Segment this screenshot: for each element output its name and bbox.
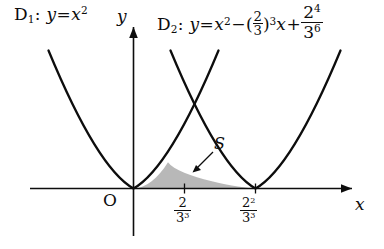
tick-label-intersection-denominator: 33: [174, 210, 191, 225]
region-leader-arrow-icon: [193, 165, 202, 173]
y-axis-arrow-icon: [129, 27, 138, 38]
tick-label-d2-vertex: 22 33: [240, 196, 257, 224]
tick-label-d2-vertex-fraction: 22 33: [240, 196, 257, 224]
tick-label-d2-vertex-num-exponent: 2: [250, 196, 255, 205]
shaded-region-s: [134, 162, 256, 188]
x-axis-label: x: [355, 196, 365, 213]
region-label-s: S: [214, 136, 225, 152]
x-axis-arrow-icon: [341, 184, 352, 193]
tick-label-intersection-numerator: 2: [174, 196, 191, 210]
figure-canvas: D1: y=x2 y D2: y=x2−(23)3x+2436 x O S: [0, 0, 384, 249]
tick-label-intersection-fraction: 2 33: [174, 196, 191, 224]
tick-label-d2-vertex-den-exponent: 3: [250, 210, 255, 219]
tick-label-d2-vertex-numerator: 22: [240, 196, 257, 210]
tick-label-intersection-den-exponent: 3: [184, 210, 189, 219]
plot-area: [0, 0, 384, 249]
tick-label-d2-vertex-denominator: 33: [240, 210, 257, 225]
tick-label-intersection: 2 33: [174, 196, 191, 224]
origin-label: O: [103, 192, 117, 209]
